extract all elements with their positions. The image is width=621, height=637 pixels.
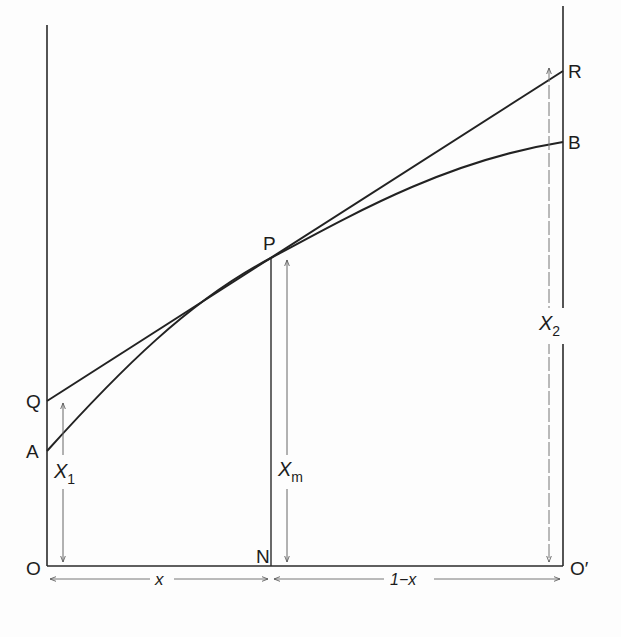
label-a: A (26, 441, 39, 462)
label-o-prime: O′ (570, 558, 589, 579)
label-r: R (568, 61, 582, 82)
curve-ab (47, 142, 563, 451)
label-n: N (256, 546, 270, 567)
label-b: B (568, 132, 581, 153)
tangent-intercept-diagram: O O′ N P Q A R B X1 Xm X2 x 1−x (0, 0, 621, 637)
tangent-line-qr (47, 71, 563, 401)
label-x: x (154, 570, 164, 589)
label-q: Q (26, 391, 41, 412)
label-o: O (26, 558, 41, 579)
label-p: P (263, 233, 276, 254)
diagram-canvas: O O′ N P Q A R B X1 Xm X2 x 1−x (0, 0, 621, 637)
label-one-minus-x: 1−x (390, 571, 417, 588)
